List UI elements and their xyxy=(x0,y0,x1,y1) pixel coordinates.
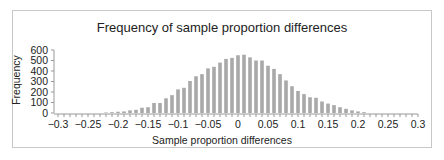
bar xyxy=(188,81,192,113)
y-tick-label: 400 xyxy=(30,65,48,77)
y-tick-label: 300 xyxy=(30,75,48,87)
bar xyxy=(254,61,258,114)
bar xyxy=(242,55,246,113)
plot-area: 0100200300400500600−0.3−0.25−0.2−0.15−0.… xyxy=(0,0,444,160)
y-tick-label: 0 xyxy=(42,107,48,119)
bar xyxy=(104,112,108,113)
bar xyxy=(206,68,210,113)
bar xyxy=(224,59,228,113)
bar xyxy=(110,112,114,113)
bar xyxy=(248,57,252,113)
bar xyxy=(236,55,240,113)
bar xyxy=(326,104,330,113)
bar xyxy=(356,111,360,113)
bar xyxy=(272,69,276,113)
x-tick-label: 0 xyxy=(235,118,241,130)
y-tick-label: 200 xyxy=(30,86,48,98)
bar xyxy=(200,74,204,113)
bar xyxy=(134,110,138,113)
x-tick-label: 0.05 xyxy=(258,118,279,130)
x-tick-label: 0.3 xyxy=(411,118,426,130)
bar xyxy=(152,103,156,113)
bar xyxy=(128,110,132,113)
y-tick-label: 600 xyxy=(30,44,48,56)
bar xyxy=(260,61,264,114)
x-tick-label: 0.25 xyxy=(378,118,399,130)
bar xyxy=(278,74,282,113)
bar xyxy=(338,107,342,113)
bar xyxy=(194,76,198,113)
bar xyxy=(170,95,174,113)
y-tick-label: 100 xyxy=(30,96,48,108)
bar xyxy=(344,109,348,113)
x-tick-label: 0.1 xyxy=(291,118,306,130)
bar xyxy=(116,112,120,113)
bar xyxy=(314,98,318,113)
x-tick-label: −0.25 xyxy=(75,118,102,130)
x-tick-label: 0.2 xyxy=(351,118,366,130)
bar xyxy=(362,112,366,113)
x-tick-label: −0.3 xyxy=(48,118,69,130)
bar xyxy=(320,101,324,113)
bar xyxy=(158,103,162,113)
bar xyxy=(182,88,186,113)
bar xyxy=(290,86,294,113)
bar xyxy=(350,110,354,113)
bar xyxy=(296,91,300,113)
bar xyxy=(332,105,336,113)
x-tick-label: −0.1 xyxy=(168,118,189,130)
y-tick-label: 500 xyxy=(30,54,48,66)
x-tick-label: −0.15 xyxy=(135,118,162,130)
bar xyxy=(212,67,216,113)
bar xyxy=(308,97,312,113)
bar xyxy=(164,98,168,113)
bar xyxy=(266,66,270,113)
bar xyxy=(284,80,288,113)
bar xyxy=(146,107,150,113)
bar xyxy=(122,111,126,113)
bar xyxy=(176,89,180,113)
bar xyxy=(140,108,144,113)
bar xyxy=(302,94,306,113)
bar xyxy=(230,58,234,113)
x-tick-label: 0.15 xyxy=(318,118,339,130)
x-tick-label: −0.2 xyxy=(108,118,129,130)
x-tick-label: −0.05 xyxy=(195,118,222,130)
bar xyxy=(218,63,222,113)
